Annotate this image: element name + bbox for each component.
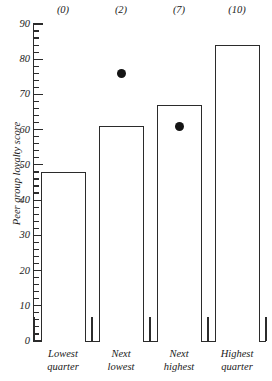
y-axis-minor-tick [34,45,39,46]
bar [41,172,86,342]
category-label-line: Next [148,347,210,360]
category-label-line: Highest [206,347,268,360]
category-label-line: quarter [206,360,268,373]
y-axis-minor-tick [34,298,39,299]
top-annotation-label: (2) [92,4,150,15]
y-axis-major-tick [34,164,43,165]
y-axis-minor-tick [34,333,39,334]
category-separator [265,317,266,341]
y-axis-minor-tick [34,214,39,215]
y-axis-tick-label: 80 [4,54,30,65]
y-axis-minor-tick [34,143,39,144]
y-axis-tick-label: 50 [4,160,30,171]
y-axis-minor-tick [34,87,39,88]
y-axis-minor-tick [34,178,39,179]
top-annotation-label: (0) [34,4,92,15]
y-axis-minor-tick [34,242,39,243]
y-axis-minor-tick [34,249,39,250]
y-axis-minor-tick [34,115,39,116]
y-axis-tick-label: 20 [4,266,30,277]
y-axis-minor-tick [34,319,39,320]
category-label: Nextlowest [90,347,152,373]
y-axis-minor-tick [34,122,39,123]
category-label: Nexthighest [148,347,210,373]
y-axis-major-tick [34,59,43,60]
y-axis-tick-label: 40 [4,195,30,206]
y-axis-minor-tick [34,66,39,67]
y-axis-minor-tick [34,30,39,31]
y-axis-tick-label: 0 [4,336,30,347]
y-axis-minor-tick [34,221,39,222]
y-axis-tick-label: 30 [4,230,30,241]
y-axis-minor-tick [34,291,39,292]
category-label-line: quarter [32,360,94,373]
y-axis-minor-tick [34,277,39,278]
y-axis-minor-tick [34,192,39,193]
category-separator [149,317,150,341]
y-axis-minor-tick [34,52,39,53]
bar [99,126,144,342]
y-axis-minor-tick [34,108,39,109]
category-separator [91,317,92,341]
y-axis-major-tick [34,23,43,24]
category-label-line: Lowest [32,347,94,360]
category-separator [207,317,208,341]
y-axis-tick-label: 90 [4,19,30,30]
y-axis-tick-label: 70 [4,89,30,100]
y-axis-minor-tick [34,326,39,327]
category-label: Lowestquarter [32,347,94,373]
y-axis-tick-label: 10 [4,301,30,312]
category-label-line: lowest [90,360,152,373]
scatter-point [175,122,184,131]
y-axis-minor-tick [34,136,39,137]
y-axis-minor-tick [34,228,39,229]
y-axis-minor-tick [34,80,39,81]
y-axis-minor-tick [34,101,39,102]
y-axis-minor-tick [34,37,39,38]
y-axis-minor-tick [34,263,39,264]
top-annotation-label: (7) [150,4,208,15]
y-axis-minor-tick [34,256,39,257]
category-separator [33,317,34,341]
bar [215,45,260,342]
bar [157,105,202,342]
loyalty-score-bar-chart: Peer group loyalty score 010203040506070… [0,0,272,381]
y-axis-line [33,23,34,342]
y-axis-minor-tick [34,207,39,208]
y-axis-minor-tick [34,73,39,74]
top-annotation-label: (10) [208,4,266,15]
y-axis-minor-tick [34,185,39,186]
y-axis-major-tick [34,129,43,130]
category-label-line: highest [148,360,210,373]
y-axis-minor-tick [34,312,39,313]
y-axis-minor-tick [34,171,39,172]
y-axis-tick-label: 60 [4,125,30,136]
y-axis-major-tick [34,94,43,95]
scatter-point [117,69,126,78]
category-label: Highestquarter [206,347,268,373]
category-label-line: Next [90,347,152,360]
y-axis-minor-tick [34,284,39,285]
y-axis-minor-tick [34,150,39,151]
y-axis-minor-tick [34,157,39,158]
y-axis-tick-labels: 0102030405060708090 [0,0,30,381]
